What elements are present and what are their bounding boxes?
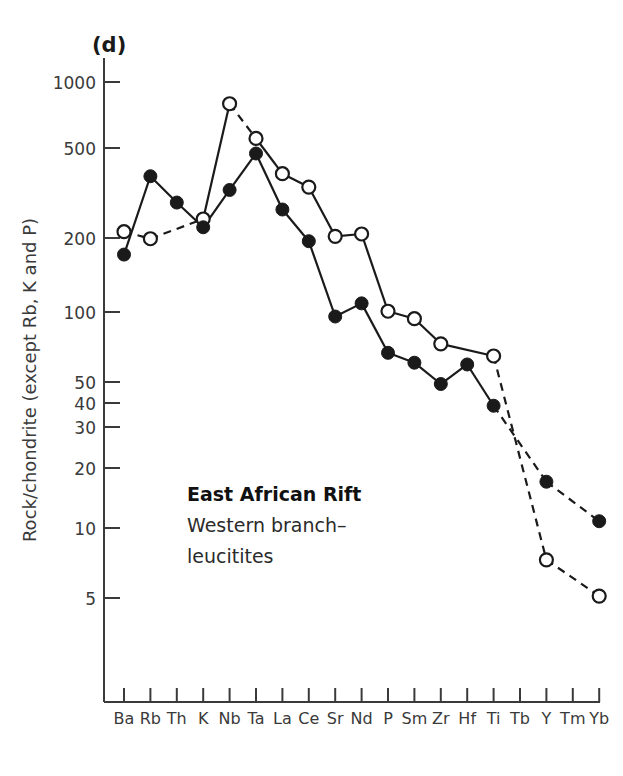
annotation-line-three: leucitites [187,545,274,567]
x-tick-label-ti: Ti [486,709,501,728]
x-tick-label-y: Y [541,709,552,728]
x-tick-label-th: Th [166,709,187,728]
data-point-filled-circle-k [197,221,210,234]
x-tick-label-tb: Tb [509,709,530,728]
data-point-filled-circle-sm [408,356,421,369]
data-point-filled-circle-la [276,203,289,216]
x-tick-label-ba: Ba [114,709,135,728]
y-tick-label: 10 [74,519,96,539]
data-point-filled-circle-sr [329,310,342,323]
figure-panel: (d) 1000 500 200 100 50 40 30 20 [0,0,623,776]
y-tick-label: 5 [85,589,96,609]
x-tick-label-nb: Nb [219,709,241,728]
data-point-filled-circle-p [382,346,395,359]
x-tick-label-tm: Tm [559,709,585,728]
data-point-filled-circle-rb [144,170,157,183]
data-point-open-circle-la [276,167,289,180]
x-tick-label-zr: Zr [432,709,450,728]
panel-label: (d) [92,33,126,57]
data-point-open-circle-ce [302,181,315,194]
x-tick-label-sr: Sr [327,709,344,728]
data-point-open-circle-ta [250,132,263,145]
y-tick-label: 100 [64,303,96,323]
y-axis-title: Rock/chondrite (except Rb, K and P) [19,218,40,542]
x-tick-label-p: P [383,709,393,728]
y-tick-label: 1000 [53,73,96,93]
data-point-filled-circle-ta [250,147,263,160]
annotation-title: East African Rift [187,483,361,505]
data-point-filled-circle-ti [487,399,500,412]
data-point-open-circle-yb [593,590,606,603]
data-point-open-circle-nd [355,227,368,240]
x-tick-label-yb: Yb [588,709,609,728]
spider-diagram: (d) 1000 500 200 100 50 40 30 20 [0,0,623,776]
data-point-filled-circle-y [540,475,553,488]
x-tick-label-ta: Ta [247,709,265,728]
x-tick-label-hf: Hf [458,709,476,728]
data-point-open-circle-y [540,553,553,566]
data-point-filled-circle-zr [434,378,447,391]
x-tick-label-nd: Nd [351,709,373,728]
data-point-filled-circle-yb [593,515,606,528]
data-point-open-circle-nb [223,97,236,110]
y-tick-label: 40 [74,394,96,414]
data-point-open-circle-sr [329,230,342,243]
data-point-filled-circle-th [170,196,183,209]
data-point-open-circle-zr [434,337,447,350]
y-tick-label: 30 [74,418,96,438]
y-tick-label: 50 [74,373,96,393]
y-tick-label: 500 [64,139,96,159]
data-point-open-circle-rb [144,232,157,245]
x-tick-label-ce: Ce [298,709,319,728]
data-point-open-circle-ti [487,349,500,362]
annotation-line-two: Western branch– [187,514,347,536]
data-point-open-circle-ba [118,225,131,238]
data-point-open-circle-sm [408,312,421,325]
x-tick-label-k: K [198,709,209,728]
x-tick-label-sm: Sm [402,709,428,728]
data-point-filled-circle-hf [461,358,474,371]
data-point-filled-circle-nb [223,183,236,196]
x-tick-label-la: La [273,709,292,728]
data-point-filled-circle-ce [302,235,315,248]
y-tick-label: 200 [64,229,96,249]
x-tick-label-rb: Rb [140,709,161,728]
data-point-filled-circle-nd [355,297,368,310]
data-point-open-circle-p [382,305,395,318]
data-point-filled-circle-ba [118,248,131,261]
y-tick-label: 20 [74,459,96,479]
